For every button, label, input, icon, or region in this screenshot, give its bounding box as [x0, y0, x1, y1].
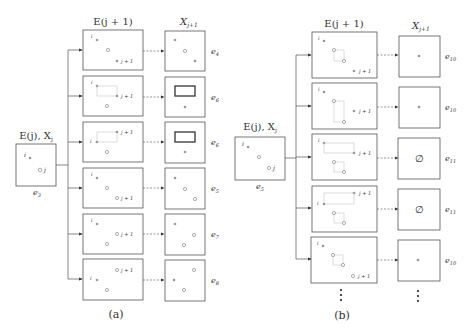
svg-text:i: i	[318, 137, 320, 143]
caption-b: (b)	[334, 309, 350, 322]
point-j-label: j	[271, 164, 275, 172]
point-i-label: i	[242, 140, 244, 147]
panel-a: E(j + 1) Xj+1 E(j), Xj i j e3 i j + 1 e4	[16, 16, 220, 321]
svg-text:j + 1: j + 1	[120, 267, 133, 274]
row-a-4: i j + 1 e5	[68, 168, 219, 209]
row-a-5: i j + 1 e7	[68, 214, 220, 255]
header-X-jp1-a: Xj+1	[179, 16, 198, 29]
svg-text:j + 1: j + 1	[120, 93, 133, 100]
svg-text:i: i	[91, 33, 93, 39]
empty-set-symbol: ∅	[415, 204, 424, 215]
svg-text:j + 1: j + 1	[120, 58, 133, 65]
svg-text:i: i	[318, 86, 320, 92]
row-a-1: i j + 1 e4	[68, 30, 219, 71]
svg-text:j + 1: j + 1	[120, 129, 133, 136]
row-a-6: j + 1 i e8	[68, 259, 219, 301]
left-box-e-label-a: e3	[33, 188, 41, 198]
svg-text:e11: e11	[445, 205, 456, 215]
row-b-5: i j + 1 e10	[296, 237, 457, 283]
svg-text:i: i	[90, 275, 92, 281]
svg-text:e11: e11	[445, 154, 456, 164]
row-b-2: i j + 1 e10	[296, 83, 457, 129]
svg-text:j + 1: j + 1	[358, 190, 371, 197]
svg-text:j + 1: j + 1	[358, 68, 371, 75]
svg-text:e10: e10	[445, 256, 457, 266]
point-j-label: j	[42, 166, 46, 174]
row-a-2: i j + 1 e6	[68, 76, 220, 117]
point-i	[29, 157, 32, 160]
svg-text:j + 1: j + 1	[120, 231, 133, 238]
diagram-canvas: E(j + 1) Xj+1 E(j), Xj i j e3 i j + 1 e4	[0, 0, 470, 336]
svg-text:j + 1: j + 1	[120, 195, 133, 202]
row-b-1: i j + 1 e10	[296, 32, 457, 78]
row-a-3: i j + 1 e6	[68, 122, 220, 163]
svg-text:i: i	[317, 200, 319, 206]
left-box-title-a: E(j), Xj	[19, 130, 53, 143]
header-E-jp1-a: E(j + 1)	[93, 16, 132, 27]
left-box-title-b: E(j), Xj	[243, 121, 277, 134]
X-box	[165, 31, 205, 71]
e-label: e4	[211, 47, 219, 57]
caption-a: (a)	[108, 308, 123, 321]
svg-text:e6: e6	[211, 93, 220, 103]
svg-text:e10: e10	[445, 103, 457, 113]
point-i-label: i	[24, 151, 26, 158]
svg-text:j + 1: j + 1	[358, 150, 371, 157]
left-box-e-label-b: e5	[256, 182, 264, 192]
svg-text:i: i	[91, 171, 93, 177]
left-box-a	[16, 144, 56, 186]
svg-text:e7: e7	[211, 230, 220, 240]
svg-text:i: i	[318, 35, 320, 41]
svg-text:e10: e10	[445, 52, 457, 62]
panel-b: E(j + 1) Xj+1 E(j), Xj i j e5 i j + 1 e1…	[235, 18, 457, 322]
svg-text:e6: e6	[211, 138, 220, 148]
header-X-jp1-b: Xj+1	[411, 20, 430, 33]
svg-text:i: i	[317, 240, 319, 246]
svg-text:j + 1: j + 1	[357, 273, 370, 280]
row-b-3: i j + 1 ∅ e11	[296, 134, 456, 180]
svg-text:e5: e5	[211, 184, 219, 194]
svg-text:i: i	[91, 79, 93, 85]
row-b-4: j + 1 i ∅ e11	[296, 186, 456, 232]
empty-set-symbol: ∅	[415, 153, 424, 164]
svg-text:i: i	[91, 217, 93, 223]
svg-text:j + 1: j + 1	[358, 108, 371, 115]
svg-text:e8: e8	[211, 276, 219, 286]
continuation-dots	[340, 289, 419, 302]
svg-text:i: i	[90, 138, 92, 144]
header-E-jp1-b: E(j + 1)	[324, 18, 363, 29]
point-j	[38, 168, 42, 172]
